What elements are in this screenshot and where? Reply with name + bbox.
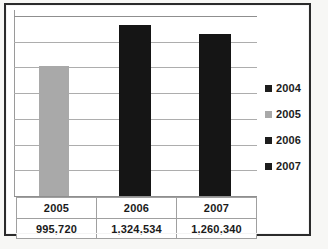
legend-label: 2006 [276, 135, 301, 146]
table-cell-category: 2006 [97, 198, 177, 219]
table-cell-category: 2007 [177, 198, 257, 219]
table-cell-value: 1,324,534 [97, 219, 177, 239]
y-axis-line [14, 10, 15, 197]
legend-swatch-icon [265, 111, 272, 118]
table-row-categories: 2005 2006 2007 [17, 198, 257, 219]
bar-2006 [119, 25, 151, 196]
bar-2005 [39, 66, 69, 196]
table-cell-category: 2005 [17, 198, 97, 219]
bar-2007 [199, 34, 231, 196]
data-table: 2005 2006 2007 995,720 1,324,534 1,260,3… [16, 197, 257, 239]
legend-item-2006: 2006 [265, 127, 313, 153]
legend-item-2007: 2007 [265, 153, 313, 179]
legend-label: 2004 [276, 83, 301, 94]
gridline-top [14, 16, 257, 17]
table-cell-value: 1,260,340 [177, 219, 257, 239]
legend-label: 2005 [276, 109, 301, 120]
chart-legend: 2004 2005 2006 2007 [265, 75, 313, 179]
legend-swatch-icon [265, 163, 272, 170]
table-cell-value: 995,720 [17, 219, 97, 239]
legend-swatch-icon [265, 85, 272, 92]
legend-item-2005: 2005 [265, 101, 313, 127]
legend-label: 2007 [276, 161, 301, 172]
legend-swatch-icon [265, 137, 272, 144]
plot-area [14, 10, 257, 197]
chart-screenshot: 2004 2005 2006 2007 2005 2006 2007 [0, 0, 328, 249]
chart-figure-frame: 2004 2005 2006 2007 2005 2006 2007 [4, 3, 311, 236]
table-row-values: 995,720 1,324,534 1,260,340 [17, 219, 257, 239]
legend-item-2004: 2004 [265, 75, 313, 101]
